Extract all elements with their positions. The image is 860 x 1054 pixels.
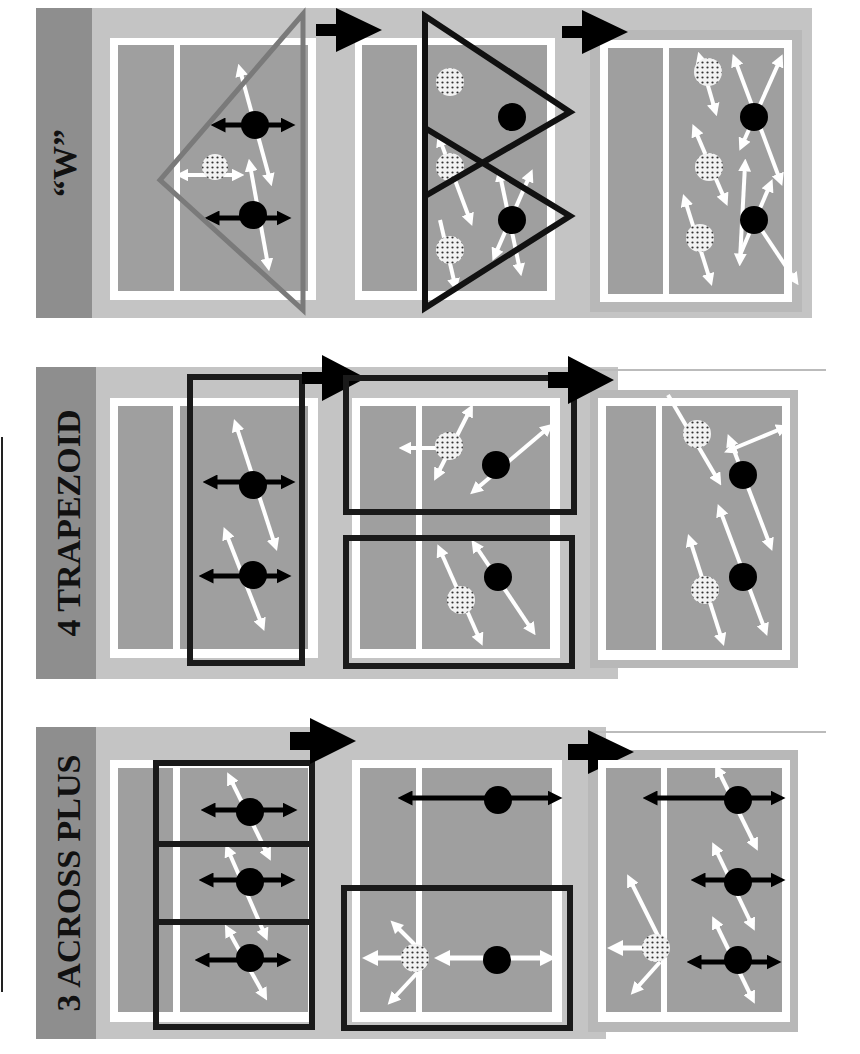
player-back [447,586,475,614]
row-label-3-across: 3 ACROSS PLUS [50,755,87,1012]
player-back [202,154,228,180]
player-back [695,153,723,181]
player-front [241,111,269,139]
player-front [484,563,512,591]
player-front [498,206,526,234]
row-label-trapezoid: 4 TRAPEZOID [50,409,87,636]
formations-diagram: “W” [0,0,860,1054]
player-front [483,946,511,974]
row-w: “W” [36,8,812,318]
player-back [436,68,464,96]
player-back [642,934,670,962]
player-front [239,201,267,229]
player-front [236,944,264,972]
player-front [236,798,264,826]
player-back [686,224,714,252]
player-front [484,786,512,814]
row-3-across-plus: 3 ACROSS PLUS [36,718,826,1039]
player-front [482,451,510,479]
player-back [436,236,464,264]
player-front [740,103,768,131]
player-back [691,576,719,604]
player-front [729,563,757,591]
player-back [401,944,429,972]
player-back [694,58,722,86]
player-front [239,561,267,589]
player-front [729,461,757,489]
player-front [236,868,264,896]
player-front [724,868,752,896]
player-back [435,432,463,460]
player-front [740,206,768,234]
player-front [724,946,752,974]
player-front [239,471,267,499]
player-back [683,420,711,448]
player-front [498,103,526,131]
row-label-w: “W” [46,129,83,197]
player-front [724,786,752,814]
